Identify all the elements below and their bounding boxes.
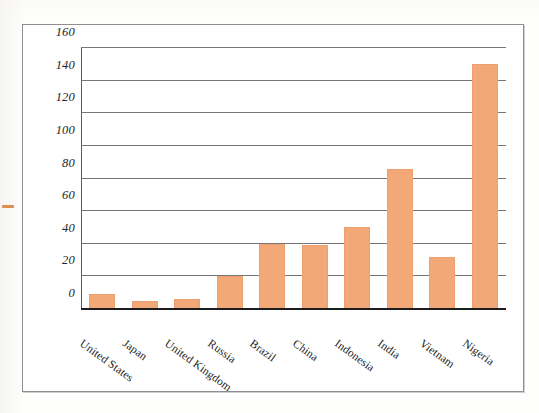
bars-group (81, 48, 506, 309)
x-label-nigeria: Nigeria (461, 337, 497, 367)
bar-vietnam (429, 257, 455, 309)
y-tick-label-120: 120 (56, 90, 75, 105)
x-axis-line (81, 308, 506, 310)
bar-russia (217, 276, 243, 309)
x-label-japan: Japan (121, 337, 150, 362)
bar-brazil (259, 244, 285, 309)
y-tick-label-20: 20 (62, 254, 75, 269)
x-axis-category-labels: United StatesJapanUnited KingdomRussiaBr… (81, 337, 506, 407)
y-tick-label-60: 60 (62, 188, 75, 203)
y-tick-label-80: 80 (62, 156, 75, 171)
y-tick-label-160: 160 (56, 25, 75, 40)
x-label-india: India (376, 337, 403, 361)
bar-india (387, 169, 413, 309)
x-label-brazil: Brazil (248, 337, 278, 364)
x-label-china: China (291, 337, 321, 363)
x-label-indonesia: Indonesia (333, 337, 377, 374)
x-label-russia: Russia (206, 337, 238, 365)
scanned-page: Number of Deaths Before Age 5 (per 1000 … (0, 0, 539, 413)
bar-indonesia (344, 227, 370, 309)
y-tick-label-140: 140 (56, 58, 75, 73)
plot-area: 020406080100120140160 (81, 48, 506, 309)
page-edge-mark (2, 205, 14, 208)
bar-china (302, 245, 328, 309)
bar-nigeria (472, 64, 498, 309)
y-tick-label-100: 100 (56, 123, 75, 138)
y-tick-label-0: 0 (69, 286, 75, 301)
x-label-vietnam: Vietnam (418, 337, 457, 370)
bar-united-states (89, 294, 115, 309)
y-tick-label-40: 40 (62, 221, 75, 236)
figure-frame: Number of Deaths Before Age 5 (per 1000 … (22, 24, 524, 392)
